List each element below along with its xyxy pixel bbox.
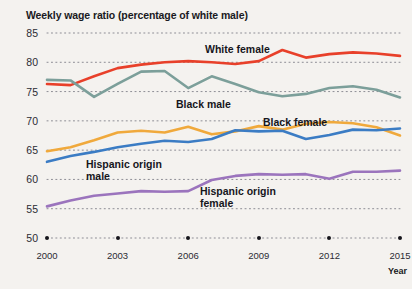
x-tick-label: 2003 [95, 250, 141, 261]
x-tick-dot [116, 236, 120, 240]
series-label-black-male: Black male [176, 99, 231, 111]
x-tick-label: 2000 [24, 250, 70, 261]
x-tick-label: 2009 [236, 250, 282, 261]
y-tick-label: 85 [14, 27, 38, 39]
y-tick-label: 50 [14, 232, 38, 244]
series-label-hispanic-origin-female: Hispanic origin female [200, 186, 276, 209]
y-tick-label: 80 [14, 56, 38, 68]
x-axis-title: Year [388, 266, 407, 276]
y-tick-label: 70 [14, 115, 38, 127]
x-tick-label: 2015 [377, 250, 412, 261]
x-tick-dot [45, 236, 49, 240]
x-tick-label: 2012 [306, 250, 352, 261]
series-line-hispanic-origin-male [47, 128, 400, 161]
series-label-white-female: White female [205, 44, 270, 56]
x-tick-label: 2006 [165, 250, 211, 261]
x-tick-dot [257, 236, 261, 240]
x-tick-dot [398, 236, 402, 240]
wage-ratio-line-chart: Weekly wage ratio (percentage of white m… [0, 0, 412, 289]
y-tick-label: 75 [14, 86, 38, 98]
series-line-black-female [47, 122, 400, 151]
y-tick-label: 55 [14, 203, 38, 215]
y-tick-label: 60 [14, 173, 38, 185]
y-tick-label: 65 [14, 144, 38, 156]
series-label-black-female: Black female [263, 117, 327, 129]
series-label-hispanic-origin-male: Hispanic origin male [86, 159, 162, 182]
